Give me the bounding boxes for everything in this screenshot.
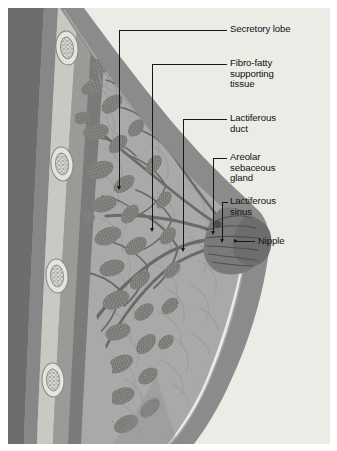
label-lactiferous-duct: Lactiferous duct (230, 113, 276, 134)
leader-areolar-gland-vertical (213, 158, 214, 232)
anatomy-illustration (8, 8, 330, 444)
label-nipple: Nipple (258, 236, 285, 247)
leader-fibro-fatty-horizontal (152, 64, 227, 65)
leader-areolar-gland-horizontal (213, 158, 227, 159)
leader-nipple-horizontal (237, 241, 255, 242)
label-secretory-lobe: Secretory lobe (230, 24, 290, 35)
leader-lactiferous-duct-arrow (181, 248, 185, 252)
leader-fibro-fatty-arrow (150, 228, 154, 232)
label-fibro-fatty-supporting-tissue: Fibro-fatty supporting tissue (230, 58, 274, 90)
leader-nipple-arrow (234, 239, 238, 243)
leader-fibro-fatty-vertical (152, 64, 153, 229)
label-lactiferous-sinus: Lactiferous sinus (230, 196, 276, 217)
label-areolar-sebaceous-gland: Areolar sebaceous gland (230, 152, 276, 184)
leader-secretory-lobe-vertical (119, 30, 120, 187)
leader-lactiferous-duct-vertical (183, 119, 184, 249)
leader-areolar-gland-arrow (211, 231, 215, 235)
leader-lactiferous-sinus-arrow (220, 239, 224, 243)
leader-secretory-lobe-horizontal (119, 30, 227, 31)
breast-anatomy-figure: Secretory lobe Fibro-fatty supporting ti… (0, 0, 337, 451)
leader-secretory-lobe-arrow (117, 186, 121, 190)
illustration-plate: Secretory lobe Fibro-fatty supporting ti… (8, 8, 330, 444)
leader-lactiferous-sinus-vertical (222, 202, 223, 240)
leader-lactiferous-duct-horizontal (183, 119, 227, 120)
